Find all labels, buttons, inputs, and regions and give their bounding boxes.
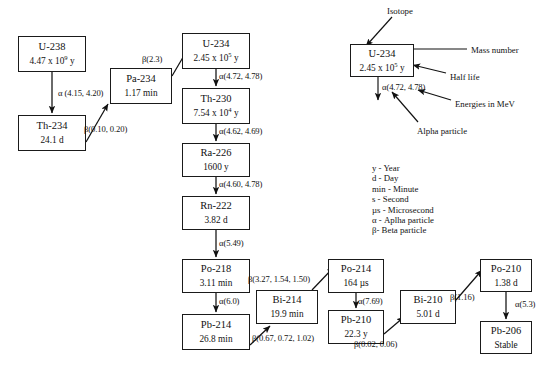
nuclide-name: Pb-210 (341, 313, 371, 326)
nuclide-name: Po-218 (201, 262, 231, 275)
key-entry-2: min - Minute (372, 184, 434, 194)
nuclide-half-life: 4.47 x 109 y (29, 55, 74, 68)
nuclide-box-u238: U-2384.47 x 109 y (18, 36, 86, 72)
key-entry-3: s - Second (372, 194, 434, 204)
nuclide-box-pb206: Pb-206Stable (480, 321, 532, 354)
callout-isotope: Isotope (387, 6, 413, 16)
key-entry-5: α - Aplha particle (372, 215, 434, 225)
decay-label-po214-pb210: α(7.69) (358, 296, 383, 306)
nuclide-half-life: 3.11 min (200, 277, 233, 290)
callout-half-life: Half life (450, 72, 480, 82)
decay-chain-diagram: U-2384.47 x 109 yTh-23424.1 dPa-2341.17 … (0, 0, 555, 373)
nuclide-name: Po-210 (491, 262, 521, 275)
nuclide-box-po210: Po-2101.38 d (480, 259, 532, 292)
nuclide-half-life: 1.17 min (124, 87, 157, 100)
decay-label-ra226-rn222: α(4.60, 4.78) (219, 179, 262, 189)
key-entry-6: β- Beta particle (372, 225, 434, 235)
nuclide-name: Pa-234 (126, 72, 156, 85)
nuclide-half-life: 24.1 d (40, 134, 63, 147)
nuclide-half-life: 2.45 x 105 y (359, 62, 404, 75)
nuclide-half-life: 164 µs (343, 277, 368, 290)
units-key-legend: y - Yeard - Daymin - Minutes - Secondµs … (372, 163, 434, 236)
nuclide-name: Bi-210 (413, 293, 442, 306)
decay-label-po218-pb214: α(6.0) (219, 296, 239, 306)
nuclide-box-po218: Po-2183.11 min (182, 259, 250, 293)
decay-label-th230-ra226: α(4.62, 4.69) (219, 126, 262, 136)
nuclide-box-th234: Th-23424.1 d (18, 115, 86, 151)
nuclide-half-life: Stable (494, 339, 517, 352)
nuclide-box-bi214: Bi-21419.9 min (256, 290, 318, 324)
callout-mass-number: Mass number (471, 45, 519, 55)
nuclide-box-po214: Po-214164 µs (328, 259, 384, 293)
nuclide-name: Th-230 (201, 92, 232, 105)
nuclide-box-rn222: Rn-2223.82 d (182, 196, 250, 230)
nuclide-name: Ra-226 (201, 146, 232, 159)
nuclide-name: Pb-206 (491, 324, 521, 337)
nuclide-half-life: 3.82 d (204, 214, 227, 227)
decay-label-po210-pb206: α(5.3) (515, 299, 535, 309)
nuclide-name: U-234 (203, 37, 230, 50)
nuclide-name: Pb-214 (201, 318, 231, 331)
nuclide-half-life: 7.54 x 104 y (193, 107, 238, 120)
callout-energies: Energies in MeV (455, 99, 515, 109)
decay-label-u234-th230: α(4.72, 4.78) (219, 71, 262, 81)
nuclide-box-pa234: Pa-2341.17 min (110, 68, 172, 104)
nuclide-half-life: 1600 y (203, 161, 229, 174)
annotation-decay-label: α(4.72, 4.78) (382, 82, 425, 92)
nuclide-name: Th-234 (37, 119, 68, 132)
annotation-example-nuclide-box: U-2342.45 x 105 y (350, 44, 414, 77)
nuclide-name: Po-214 (341, 262, 371, 275)
decay-label-pa234-u234: β(2.3) (142, 54, 162, 64)
key-entry-1: d - Day (372, 173, 434, 183)
decay-label-th234-pa234: β(0.10, 0.20) (84, 124, 127, 134)
decay-label-bi214-po214: β(3.27, 1.54, 1.50) (248, 274, 310, 284)
nuclide-name: Rn-222 (200, 199, 232, 212)
decay-label-rn222-po218: α(5.49) (219, 238, 244, 248)
nuclide-name: Bi-214 (272, 293, 301, 306)
nuclide-half-life: 26.8 min (199, 333, 232, 346)
nuclide-box-ra226: Ra-2261600 y (182, 143, 250, 177)
nuclide-box-th230: Th-2307.54 x 104 y (182, 88, 250, 124)
nuclide-half-life: 2.45 x 105 y (193, 52, 238, 65)
decay-label-pb214-bi214: β(0.67, 0.72, 1.02) (252, 333, 314, 343)
nuclide-half-life: 1.38 d (494, 277, 517, 290)
nuclide-box-u234: U-2342.45 x 105 y (182, 33, 250, 69)
nuclide-half-life: 19.9 min (270, 308, 303, 321)
decay-label-pb210-bi210: β(0.02, 0.06) (354, 339, 397, 349)
callout-alpha-particle: Alpha particle (417, 126, 467, 136)
key-entry-0: y - Year (372, 163, 434, 173)
nuclide-name: U-238 (39, 40, 66, 53)
nuclide-box-pb214: Pb-21426.8 min (182, 314, 250, 350)
key-entry-4: µs - Microsecond (372, 205, 434, 215)
decay-label-u238-th234: α (4.15, 4.20) (58, 88, 103, 98)
nuclide-name: U-234 (369, 47, 396, 60)
decay-label-bi210-po210: β(1.16) (450, 292, 474, 302)
nuclide-half-life: 5.01 d (416, 308, 439, 321)
nuclide-box-bi210: Bi-2105.01 d (400, 290, 456, 324)
